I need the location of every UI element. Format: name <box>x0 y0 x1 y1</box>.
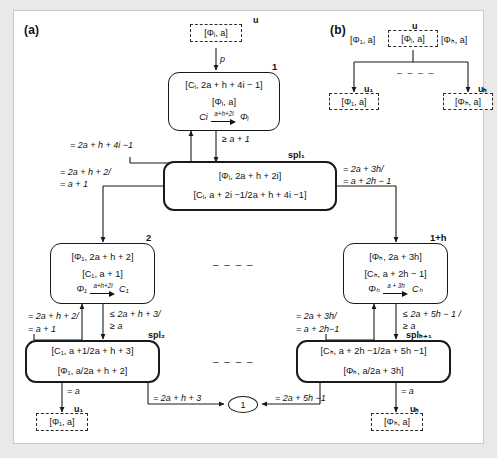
node2-box: [Φ₁, 2a + h + 2] [C₁, a + 1] Φ₁ a+h+2i C… <box>50 243 155 304</box>
node2-transition-arrow-icon: a+h+2i <box>90 283 116 296</box>
spl1-left-label-line2: = a + 1 <box>60 178 88 190</box>
ellipsis-upper: – – – – <box>213 259 254 270</box>
terminal-uh-box: [Φₕ, a] <box>371 413 423 431</box>
b-left-text: [Φ₁, a] <box>350 34 375 46</box>
node2-line2: [C₁, a + 1] <box>82 268 123 281</box>
spl1-tag: spl₁ <box>288 150 305 160</box>
node1h-tag: 1+h <box>430 232 446 243</box>
spl1-line2: [Cᵢ, a + 2i −1/2a + h + 4i −1] <box>193 189 306 202</box>
node1h-left-label-line2: = a + 2h−1 <box>296 323 339 335</box>
b-terminal-u-text: [Φᵢ, a] <box>401 34 425 44</box>
spl2-line2: [Φ₁, a/2a + h + 2] <box>58 365 128 378</box>
node2-guard-line1: ≤ 2a + h + 3/ <box>110 308 160 320</box>
node1h-guard-line1: ≤ 2a + 5h − 1 / <box>403 308 461 320</box>
node2-left-label-line2: = a + 1 <box>28 323 56 335</box>
edge-label-node1-guard: ≥ a + 1 <box>222 133 250 145</box>
node1h-line2: [Cₕ, a + 2h − 1] <box>364 268 426 281</box>
node1-transition-label: a+h+2i <box>214 109 233 118</box>
splh1-line1: [Cₕ, a + 2h −1/2a + 5h −1] <box>320 345 426 358</box>
node1h-left-label-line1: = 2a + 3h/ <box>296 310 337 322</box>
terminal-uh-text: [Φₕ, a] <box>384 417 410 427</box>
join-node: 1 <box>228 396 258 413</box>
spl1-left-label-line1: = 2a + h + 2/ <box>60 166 111 178</box>
edge-label-p: p <box>220 53 225 65</box>
node1-line1: [Cᵢ, 2a + h + 4i − 1] <box>185 79 262 92</box>
b-terminal-u1-text: [Φ₁, a] <box>341 97 366 107</box>
node1-transition: Ci a+h+2i Φᵢ <box>199 111 249 124</box>
spl1-right-label-line2: = a + 2h − 1 <box>343 175 391 187</box>
spl2-line1: [C₁, a +1/2a + h + 3] <box>51 345 133 358</box>
b-right-text: [Φₕ, a] <box>441 34 467 46</box>
node1-transition-arrow-icon: a+h+2i <box>211 111 237 124</box>
terminal-u-box: [Φᵢ, a] <box>190 24 242 42</box>
spl2-box: [C₁, a +1/2a + h + 3] [Φ₁, a/2a + h + 2] <box>25 340 160 383</box>
node1-line2: [Φᵢ, a] <box>212 96 236 109</box>
splh1-tag: splₕ₊₁ <box>406 330 432 340</box>
spl1-right-label-line1: = 2a + 3h/ <box>343 163 384 175</box>
node2-transition-label: a+h+2i <box>93 281 112 290</box>
node1-box: [Cᵢ, 2a + h + 4i − 1] [Φᵢ, a] Ci a+h+2i … <box>168 72 280 131</box>
spl1-box: [Φᵢ, 2a + h + 2i] [Cᵢ, a + 2i −1/2a + h … <box>163 161 337 211</box>
node2-transition-from: Φ₁ <box>76 283 87 296</box>
terminal-u-tag: u <box>253 15 259 25</box>
figure-root: (a) (b) u [Φᵢ, a] p 1 [Cᵢ, 2a + h + 4i −… <box>0 0 497 458</box>
b-terminal-u-box: [Φᵢ, a] <box>388 30 438 47</box>
ellipsis-lower: – – – – <box>213 356 254 367</box>
node2-transition: Φ₁ a+h+2i C₁ <box>76 283 128 296</box>
spl2-tag: spl₂ <box>148 330 165 340</box>
spl1-line1: [Φᵢ, 2a + h + 2i] <box>219 170 281 183</box>
splh1-line2: [Φₕ, a/2a + 3h] <box>343 365 403 378</box>
terminal-u1-box: [Φ₁, a] <box>36 413 88 431</box>
node1h-transition-label: a + 3h <box>387 281 405 290</box>
node1h-transition: Φₕ a + 3h Cₕ <box>368 283 422 296</box>
node2-transition-to: C₁ <box>119 283 129 296</box>
node1h-transition-arrow-icon: a + 3h <box>383 283 409 296</box>
node2-line1: [Φ₁, 2a + h + 2] <box>71 251 133 264</box>
node1h-transition-to: Cₕ <box>412 283 423 296</box>
join-node-label: 1 <box>240 400 245 410</box>
spl2-out-left-label: = a <box>67 385 80 397</box>
terminal-u-text: [Φᵢ, a] <box>204 28 228 38</box>
panel-label-b: (b) <box>330 23 346 37</box>
splh1-box: [Cₕ, a + 2h −1/2a + 5h −1] [Φₕ, a/2a + 3… <box>296 340 451 383</box>
b-terminal-u1-box: [Φ₁, a] <box>329 93 379 110</box>
node1-transition-to: Φᵢ <box>240 111 249 124</box>
splh1-out-left-label: = 2a + 5h −1 <box>275 392 326 404</box>
node2-tag: 2 <box>146 232 151 243</box>
splh1-out-right-label: = a <box>401 385 414 397</box>
terminal-u1-text: [Φ₁, a] <box>49 417 74 427</box>
node1h-transition-from: Φₕ <box>368 283 380 296</box>
b-terminal-uh-box: [Φₕ, a] <box>443 93 493 110</box>
node1-transition-from: Ci <box>199 111 208 124</box>
b-terminal-uh-text: [Φₕ, a] <box>455 97 481 107</box>
spl2-out-right-label: = 2a + h + 3 <box>153 392 201 404</box>
node1-tag: 1 <box>272 61 277 72</box>
node1h-box: [Φₕ, 2a + 3h] [Cₕ, a + 2h − 1] Φₕ a + 3h… <box>343 243 448 304</box>
node2-guard-line2: ≥ a <box>110 320 122 332</box>
node2-left-label-line1: = 2a + h + 2/ <box>28 310 79 322</box>
edge-label-node1-feedback: = 2a + h + 4i −1 <box>70 139 133 151</box>
node1h-line1: [Φₕ, 2a + 3h] <box>369 251 421 264</box>
b-ellipsis: – – – – <box>397 68 435 78</box>
panel-label-a: (a) <box>24 23 39 37</box>
